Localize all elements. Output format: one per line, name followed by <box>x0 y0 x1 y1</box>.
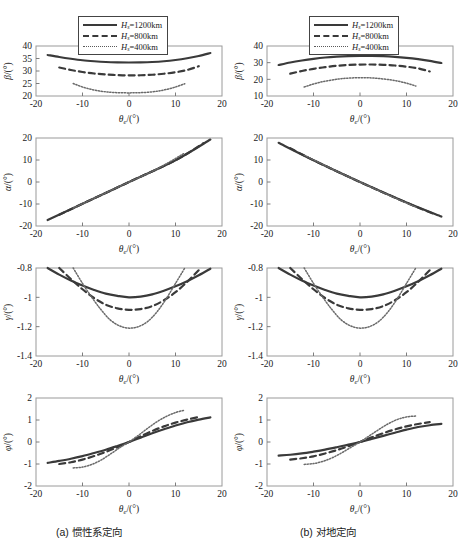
legend-item-label: Hs=800km <box>121 31 158 41</box>
y-tick-label: -0.8 <box>17 263 32 273</box>
x-tick-label: -10 <box>76 99 89 109</box>
data-curve <box>48 268 211 297</box>
subfigure-caption-a: (a) 惯性系定向 <box>56 524 122 539</box>
y-tick-label: -1.2 <box>248 322 263 332</box>
x-tick-label: -10 <box>307 359 320 369</box>
y-tick-label: 10 <box>254 155 264 165</box>
y-tick-label: -1.2 <box>17 322 32 332</box>
plot-b-gamma: -20-1001020-1.4-1.2-1-0.8γ/(°)θe/(°) <box>231 260 461 390</box>
x-tick-label: 10 <box>171 229 181 239</box>
subplot-b-phi: -20-1001020-2-1012φ/(°)θe/(°) <box>231 390 461 520</box>
x-tick-label: 0 <box>358 359 363 369</box>
y-tick-label: 0 <box>27 177 32 187</box>
legend: Hs=1200kmHs=800kmHs=400km <box>78 16 168 55</box>
legend-line-sample-dot <box>83 43 117 50</box>
column-b: Hs=1200kmHs=800kmHs=400km-20-10010201020… <box>231 0 461 520</box>
x-tick-label: 0 <box>127 99 132 109</box>
axes-frame <box>267 268 453 356</box>
data-curve <box>304 78 416 87</box>
legend-item-label: Hs=400km <box>121 42 158 52</box>
x-axis-label: θe/(°) <box>350 504 370 515</box>
x-axis-label: θe/(°) <box>350 114 370 125</box>
y-tick-label: -2 <box>24 481 32 491</box>
x-axis-label: θe/(°) <box>350 244 370 255</box>
legend: Hs=1200kmHs=800kmHs=400km <box>309 16 399 55</box>
x-tick-label: -10 <box>76 489 89 499</box>
figure-root: Hs=1200kmHs=800kmHs=400km-20-10010202025… <box>0 0 461 547</box>
y-axis-label: β/(°) <box>3 62 14 81</box>
legend-item-label: Hs=800km <box>352 31 389 41</box>
y-tick-label: 0 <box>27 437 32 447</box>
x-tick-label: 20 <box>448 489 458 499</box>
y-tick-label: 40 <box>23 41 33 51</box>
y-tick-label: -2 <box>255 481 263 491</box>
x-tick-label: -10 <box>76 359 89 369</box>
legend-line-sample-dash <box>83 32 117 39</box>
x-tick-label: 20 <box>217 229 227 239</box>
subplot-a-gamma: -20-1001020-1.4-1.2-1-0.8γ/(°)θe/(°) <box>0 260 230 390</box>
x-axis-label: θe/(°) <box>119 504 139 515</box>
data-curve <box>48 417 211 463</box>
y-tick-label: 30 <box>254 58 264 68</box>
y-tick-label: -0.8 <box>248 263 263 273</box>
data-curve <box>59 268 199 310</box>
axes-frame <box>36 268 222 356</box>
subplot-b-beta: Hs=1200kmHs=800kmHs=400km-20-10010201020… <box>231 0 461 130</box>
x-tick-label: 0 <box>358 489 363 499</box>
data-curve <box>279 268 442 297</box>
y-tick-label: 1 <box>27 415 32 425</box>
data-curve <box>73 153 185 208</box>
y-axis-label: β/(°) <box>234 62 245 81</box>
y-tick-label: 10 <box>254 91 264 101</box>
y-axis-label: α/(°) <box>3 173 14 191</box>
subplot-a-alpha: -20-1001020-20-1001020α/(°)θe/(°) <box>0 130 230 260</box>
column-a: Hs=1200kmHs=800kmHs=400km-20-10010202025… <box>0 0 230 520</box>
data-curve <box>290 422 430 459</box>
data-curve <box>290 268 430 310</box>
x-tick-label: 0 <box>127 359 132 369</box>
y-tick-label: 20 <box>254 75 264 85</box>
subplot-b-alpha: -20-1001020-20-1001020α/(°)θe/(°) <box>231 130 461 260</box>
y-axis-label: φ/(°) <box>3 433 14 451</box>
x-tick-label: 0 <box>358 229 363 239</box>
y-tick-label: 2 <box>27 393 32 403</box>
x-tick-label: 20 <box>448 99 458 109</box>
x-tick-label: 20 <box>217 489 227 499</box>
legend-item-label: Hs=1200km <box>352 20 393 30</box>
plot-b-phi: -20-1001020-2-1012φ/(°)θe/(°) <box>231 390 461 520</box>
y-tick-label: 20 <box>23 133 33 143</box>
data-curve <box>73 84 185 93</box>
legend-item: Hs=800km <box>83 30 162 41</box>
x-tick-label: -10 <box>307 229 320 239</box>
y-tick-label: 0 <box>258 437 263 447</box>
y-axis-label: γ/(°) <box>234 304 245 321</box>
x-tick-label: -10 <box>307 489 320 499</box>
y-tick-label: 20 <box>254 133 264 143</box>
x-tick-label: -10 <box>307 99 320 109</box>
legend-item: Hs=1200km <box>83 19 162 30</box>
legend-line-sample-dash <box>314 32 348 39</box>
y-tick-label: 0 <box>258 177 263 187</box>
y-tick-label: -1 <box>255 459 263 469</box>
y-tick-label: 25 <box>23 79 33 89</box>
data-curve <box>59 66 199 75</box>
plot-a-gamma: -20-1001020-1.4-1.2-1-0.8γ/(°)θe/(°) <box>0 260 230 390</box>
y-axis-label: α/(°) <box>234 173 245 191</box>
x-tick-label: 0 <box>358 99 363 109</box>
legend-item: Hs=400km <box>83 41 162 52</box>
x-tick-label: 10 <box>171 489 181 499</box>
x-tick-label: 20 <box>217 359 227 369</box>
y-tick-label: -1.4 <box>248 351 263 361</box>
y-tick-label: -10 <box>19 199 32 209</box>
y-tick-label: -1.4 <box>17 351 32 361</box>
data-curve <box>73 410 185 468</box>
x-axis-label: θe/(°) <box>350 374 370 385</box>
y-tick-label: 35 <box>23 54 33 64</box>
y-axis-label: γ/(°) <box>3 304 14 321</box>
y-axis-label: φ/(°) <box>234 433 245 451</box>
legend-item: Hs=400km <box>314 41 393 52</box>
subfigure-caption-b: (b) 对地定向 <box>300 524 356 539</box>
y-tick-label: 30 <box>23 66 33 76</box>
y-tick-label: -1 <box>24 459 32 469</box>
y-tick-label: -10 <box>250 199 263 209</box>
